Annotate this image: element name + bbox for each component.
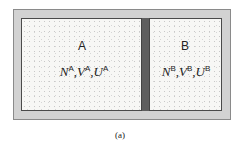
subsystem-a-variables: NA,VA,UA bbox=[40, 64, 128, 80]
subsystem-b-label: B bbox=[165, 39, 205, 53]
var-v-b: VB bbox=[179, 64, 192, 79]
var-n-a: NA bbox=[60, 64, 74, 79]
partition-wall bbox=[141, 18, 150, 111]
subsystem-a-label: A bbox=[60, 39, 104, 53]
var-u-b: UB bbox=[196, 64, 211, 79]
var-n-b: NB bbox=[162, 64, 176, 79]
var-v-a: VA bbox=[77, 64, 90, 79]
var-u-a: UA bbox=[94, 64, 109, 79]
subsystem-b-variables: NB,VB,UB bbox=[150, 64, 222, 80]
figure-caption: (a) bbox=[100, 130, 140, 140]
